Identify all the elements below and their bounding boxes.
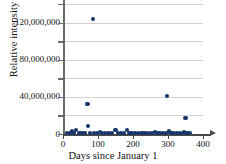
data-point <box>183 116 187 120</box>
gridline <box>63 41 203 42</box>
y-axis-tick <box>58 4 64 5</box>
y-axis-tick <box>58 60 64 61</box>
y-axis-tick <box>58 41 64 42</box>
data-point <box>85 102 89 106</box>
y-axis-tick <box>58 115 64 116</box>
gridline <box>63 97 203 98</box>
y-axis-line <box>63 0 65 134</box>
y-axis-tick-label: 120,000,000 <box>15 18 60 27</box>
gridline <box>63 23 203 24</box>
y-axis-tick <box>58 23 64 24</box>
scatter-chart: Relative intensity 040,000,00080,000,000… <box>0 0 226 164</box>
y-axis-tick <box>58 97 64 98</box>
x-axis-tick-label: 100 <box>83 140 113 149</box>
gridline <box>63 115 203 116</box>
x-axis-title: Days since January 1 <box>0 150 226 161</box>
x-axis-tick-label: 300 <box>153 140 183 149</box>
plot-area <box>63 4 203 135</box>
data-point <box>91 17 95 21</box>
x-axis-tick-label: 0 <box>48 140 78 149</box>
data-point <box>72 131 76 135</box>
x-axis-tick-label: 200 <box>118 140 148 149</box>
gridline <box>63 60 203 61</box>
y-axis-tick <box>58 78 64 79</box>
x-axis-arrow-icon <box>210 130 216 136</box>
y-axis-tick-label: 80,000,000 <box>20 55 61 64</box>
y-axis-tick-label: 40,000,000 <box>20 92 61 101</box>
data-point <box>95 131 99 135</box>
x-axis-tick-label: 400 <box>188 140 218 149</box>
gridline <box>63 78 203 79</box>
gridline <box>63 4 203 5</box>
